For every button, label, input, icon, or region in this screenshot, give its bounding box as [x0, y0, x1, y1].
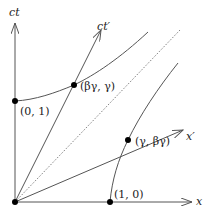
point-origin: [12, 199, 18, 205]
x-prime-axis-label: x′: [186, 131, 195, 142]
point-0-1: [12, 98, 18, 104]
point-g-bg: [125, 137, 131, 143]
point-g-bg-label: (γ, βγ): [135, 136, 170, 147]
point-bg-g: [71, 82, 77, 88]
ct-prime-axis-label: ct′: [97, 21, 110, 32]
x-axis-label: x: [196, 196, 202, 207]
hyperbola-spacelike: [110, 63, 178, 202]
ct-axis-label: ct: [9, 7, 20, 18]
spacetime-diagram: ct x ct′ x′ (0, 1) (1, 0) (βγ, γ) (γ, βγ…: [0, 0, 208, 216]
point-1-0-label: (1, 0): [114, 189, 144, 200]
point-0-1-label: (0, 1): [20, 106, 50, 117]
point-bg-g-label: (βγ, γ): [80, 81, 115, 92]
point-1-0: [107, 199, 113, 205]
